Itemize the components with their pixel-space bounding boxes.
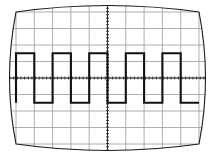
crt-screen-svg <box>0 0 215 156</box>
oscilloscope-figure <box>0 0 215 156</box>
